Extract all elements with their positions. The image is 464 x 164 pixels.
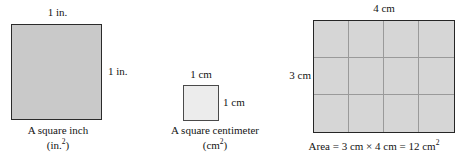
area-grid-shape	[313, 20, 455, 133]
square-inch-side-dimension-label: 1 in.	[108, 65, 128, 78]
grid-cell	[349, 21, 384, 58]
area-grid-side-dimension-label: 3 cm	[275, 69, 311, 82]
grid-cell	[314, 58, 349, 95]
grid-cell	[419, 21, 454, 58]
grid-cell	[419, 58, 454, 95]
square-centimeter-figure: 1 cm 1 cm A square centimeter (cm2)	[150, 0, 280, 164]
square-inch-caption: A square inch	[0, 124, 116, 137]
grid-cell	[384, 95, 419, 132]
grid-cell	[384, 58, 419, 95]
square-inch-shape	[11, 24, 102, 120]
square-inch-unit-close: )	[66, 139, 70, 151]
square-inch-unit-base: (in.	[47, 139, 62, 151]
square-centimeter-caption: A square centimeter	[150, 124, 280, 137]
square-centimeter-side-dimension-label: 1 cm	[223, 96, 245, 109]
square-inch-top-dimension-label: 1 in.	[11, 6, 104, 19]
area-grid-top-dimension-label: 4 cm	[313, 2, 455, 15]
square-inch-unit-notation: (in.2)	[0, 139, 116, 152]
square-inch-figure: 1 in. 1 in. A square inch (in.2)	[0, 0, 150, 164]
square-centimeter-top-dimension-label: 1 cm	[177, 68, 225, 81]
grid-cell	[349, 58, 384, 95]
grid-cell	[314, 95, 349, 132]
area-grid-figure: 4 cm 3 cm Area = 3 cm × 4 cm = 12 cm2	[280, 0, 464, 164]
area-equation-text: Area = 3 cm × 4 cm = 12 cm	[309, 140, 436, 152]
grid-cell	[384, 21, 419, 58]
area-equation-caption: Area = 3 cm × 4 cm = 12 cm2	[284, 140, 464, 153]
square-centimeter-unit-notation: (cm2)	[150, 139, 280, 152]
square-centimeter-unit-close: )	[224, 139, 228, 151]
grid-cell	[314, 21, 349, 58]
area-equation-exponent: 2	[436, 138, 440, 147]
square-centimeter-unit-base: (cm	[203, 139, 220, 151]
grid-cell	[419, 95, 454, 132]
square-centimeter-shape	[183, 85, 219, 121]
grid-cell	[349, 95, 384, 132]
